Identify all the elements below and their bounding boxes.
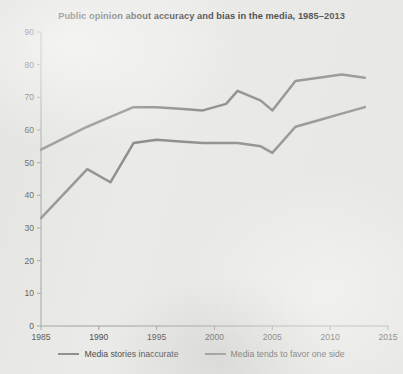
y-axis-tick-label: 80 <box>24 60 34 70</box>
y-axis-tick-label: 90 <box>24 27 34 37</box>
legend-swatch-icon <box>205 353 226 356</box>
data-series-group <box>41 74 365 218</box>
x-axis-tick-label: 1990 <box>89 332 108 342</box>
legend-label: Media tends to favor one side <box>231 349 345 359</box>
y-axis-tick-label: 10 <box>24 288 34 298</box>
chart-container: Public opinion about accuracy and bias i… <box>0 0 403 374</box>
chart-legend: Media stories inaccurate Media tends to … <box>0 349 403 359</box>
x-axis: 1985199019952000200520102015 <box>31 326 397 342</box>
series-line-media-stories-inaccurate <box>41 107 365 218</box>
y-axis-tick-label: 0 <box>29 321 34 331</box>
x-axis-tick-label: 2015 <box>378 332 397 342</box>
legend-item-media-stories-inaccurate[interactable]: Media stories inaccurate <box>58 349 178 359</box>
legend-item-media-tends-to-favor-one-side[interactable]: Media tends to favor one side <box>205 349 345 359</box>
y-axis: 0102030405060708090 <box>24 27 41 331</box>
y-axis-tick-label: 50 <box>24 158 34 168</box>
x-axis-tick-label: 2010 <box>321 332 340 342</box>
x-axis-tick-label: 2000 <box>205 332 224 342</box>
y-axis-tick-label: 30 <box>24 223 34 233</box>
y-axis-tick-label: 60 <box>24 125 34 135</box>
legend-swatch-icon <box>58 353 79 356</box>
x-axis-tick-label: 2005 <box>263 332 282 342</box>
x-axis-tick-label: 1995 <box>147 332 166 342</box>
legend-label: Media stories inaccurate <box>84 349 178 359</box>
y-axis-tick-label: 40 <box>24 190 34 200</box>
y-axis-tick-label: 20 <box>24 256 34 266</box>
series-line-media-tends-to-favor-one-side <box>41 74 365 149</box>
x-axis-tick-label: 1985 <box>31 332 50 342</box>
y-axis-tick-label: 70 <box>24 92 34 102</box>
line-chart-plot: 0102030405060708090 19851990199520002005… <box>0 0 403 374</box>
